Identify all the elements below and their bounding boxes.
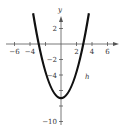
y-axis-label: y [57,6,63,14]
y-axis [59,16,63,125]
x-axis [6,42,119,46]
chart-canvas: −6 −4 2 4 6 2 −2 −4 −10 y h [0,0,123,126]
curve-label-h: h [85,73,90,81]
y-tick-label: −10 [42,118,57,126]
y-axis-arrow-icon [59,16,63,22]
x-tick-label: 6 [105,48,110,56]
x-tick-label: 2 [74,48,78,56]
x-tick-label: −4 [25,48,36,56]
x-tick-label: −6 [9,48,20,56]
y-tick-label: −2 [47,56,57,64]
x-axis-arrow-icon [113,42,119,46]
y-tick-label: 2 [53,25,57,33]
x-tick-label: 4 [90,48,95,56]
